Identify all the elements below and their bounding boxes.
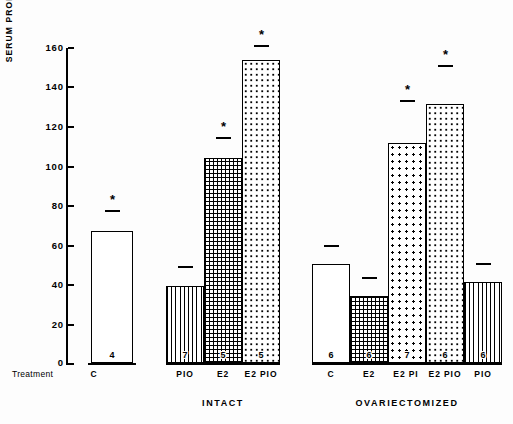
bar-control-isolated[interactable]: 4 xyxy=(91,231,133,363)
errorbar-ovx-e2-pi xyxy=(400,100,415,102)
group-label-intact: INTACT xyxy=(166,398,280,408)
bar-ovx-e2-pi[interactable]: 7 xyxy=(388,143,426,363)
y-tick-label-160: 160 xyxy=(24,42,64,53)
errorbar-ovx-c xyxy=(324,245,339,247)
bar-n-intact-pio: 7 xyxy=(167,350,203,360)
errorbar-ovx-pio xyxy=(476,263,491,265)
bar-intact-e2-pio[interactable]: 5 xyxy=(242,60,280,363)
errorbar-intact-e2 xyxy=(216,137,231,139)
plot-area: 4 * 7 5 * 5 * xyxy=(66,20,506,365)
group-label-ovariectomized: OVARIECTOMIZED xyxy=(312,398,502,408)
errorbar-ovx-e2-pio xyxy=(438,65,453,67)
y-tick-label-100: 100 xyxy=(24,161,64,172)
baseline-ovariectomized xyxy=(312,363,502,365)
bar-ovx-pio[interactable]: 6 xyxy=(464,282,502,363)
bar-group-ovariectomized: 6 6 7 * 6 * 6 xyxy=(312,20,502,365)
bar-n-ovx-pio: 6 xyxy=(465,350,501,360)
bar-n-intact-e2: 5 xyxy=(205,350,241,360)
significance-ovx-e2-pio: * xyxy=(438,52,453,58)
bar-group-intact: 7 5 * 5 * xyxy=(166,20,280,365)
significance-ovx-e2-pi: * xyxy=(400,87,415,93)
errorbar-ovx-e2 xyxy=(362,277,377,279)
x-label-intact-pio: PIO xyxy=(166,369,204,379)
significance-intact-e2-pio: * xyxy=(254,32,269,38)
bar-n-ovx-e2-pio: 6 xyxy=(427,350,463,360)
errorbar-control-isolated xyxy=(105,210,120,212)
bar-intact-pio[interactable]: 7 xyxy=(166,286,204,363)
errorbar-intact-pio xyxy=(178,266,193,268)
baseline-intact xyxy=(166,363,280,365)
bar-n-ovx-e2: 6 xyxy=(351,350,387,360)
y-tick-label-140: 140 xyxy=(24,81,64,92)
significance-intact-e2: * xyxy=(216,124,231,130)
bar-ovx-e2-pio[interactable]: 6 xyxy=(426,104,464,363)
x-label-intact-e2: E2 xyxy=(204,369,242,379)
bar-ovx-e2[interactable]: 6 xyxy=(350,296,388,363)
errorbar-intact-e2-pio xyxy=(254,45,269,47)
bar-n-ovx-e2-pi: 7 xyxy=(389,350,425,360)
y-axis-title: SERUM PROLACTIN ( ng / ml ) xyxy=(4,0,14,96)
y-tick-label-60: 60 xyxy=(24,240,64,251)
x-label-ovx-pio: PIO xyxy=(464,369,502,379)
y-tick-label-0: 0 xyxy=(24,357,64,368)
x-label-ovx-e2: E2 xyxy=(350,369,388,379)
x-label-ovx-e2-pi: E2 PI xyxy=(385,369,427,379)
y-tick-label-120: 120 xyxy=(24,121,64,132)
treatment-axis-caption: Treatment xyxy=(12,369,53,379)
y-tick-label-40: 40 xyxy=(24,279,64,290)
bar-n-control-isolated: 4 xyxy=(92,350,132,360)
bar-n-intact-e2-pio: 5 xyxy=(243,350,279,360)
x-label-ovx-c: C xyxy=(312,369,350,379)
y-tick-label-80: 80 xyxy=(24,200,64,211)
x-label-intact-e2-pio: E2 PIO xyxy=(238,369,284,379)
bar-group-control: 4 * xyxy=(88,20,136,365)
bar-n-ovx-c: 6 xyxy=(313,350,349,360)
y-tick-label-20: 20 xyxy=(24,319,64,330)
x-label-control-isolated: C xyxy=(70,369,118,379)
bar-ovx-c[interactable]: 6 xyxy=(312,264,350,363)
bar-intact-e2[interactable]: 5 xyxy=(204,158,242,363)
baseline-control xyxy=(88,363,136,365)
x-label-ovx-e2-pio: E2 PIO xyxy=(423,369,467,379)
significance-control-isolated: * xyxy=(105,197,120,203)
chart-figure: SERUM PROLACTIN ( ng / ml ) 160 140 120 … xyxy=(0,0,513,424)
